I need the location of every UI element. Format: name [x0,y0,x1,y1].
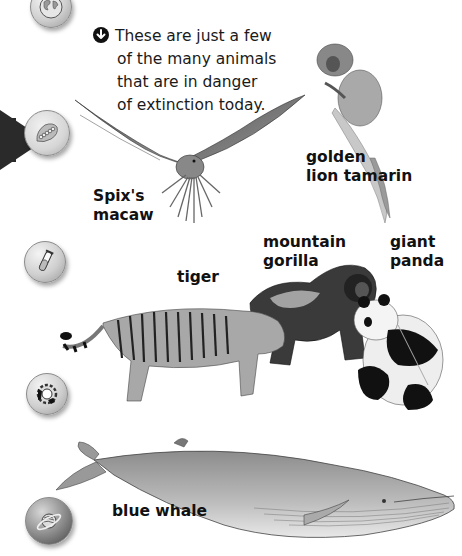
globe-icon [37,0,65,21]
tiger-illustration [58,298,288,408]
golden-lion-tamarin-illustration [305,38,415,223]
leaf-caterpillar-icon [33,119,61,147]
label-giant-panda: giant panda [390,233,444,271]
label-tiger: tiger [177,268,219,287]
label-spixs-macaw: Spix's macaw [93,187,154,225]
down-arrow-circle-icon [93,27,109,43]
sidebar-item-globe[interactable] [30,0,72,28]
intro-line-1: These are just a few [115,27,272,45]
sidebar-item-nature[interactable] [24,110,70,156]
intro-line-3: that are in danger [93,71,283,94]
test-tube-icon [31,248,59,276]
intro-line-2: of the many animals [93,48,283,71]
gear-icon [33,380,61,408]
label-golden-lion-tamarin: golden lion tamarin [306,148,412,186]
sidebar-item-science[interactable] [24,241,66,283]
giant-panda-illustration [338,290,453,415]
label-blue-whale: blue whale [112,502,207,521]
